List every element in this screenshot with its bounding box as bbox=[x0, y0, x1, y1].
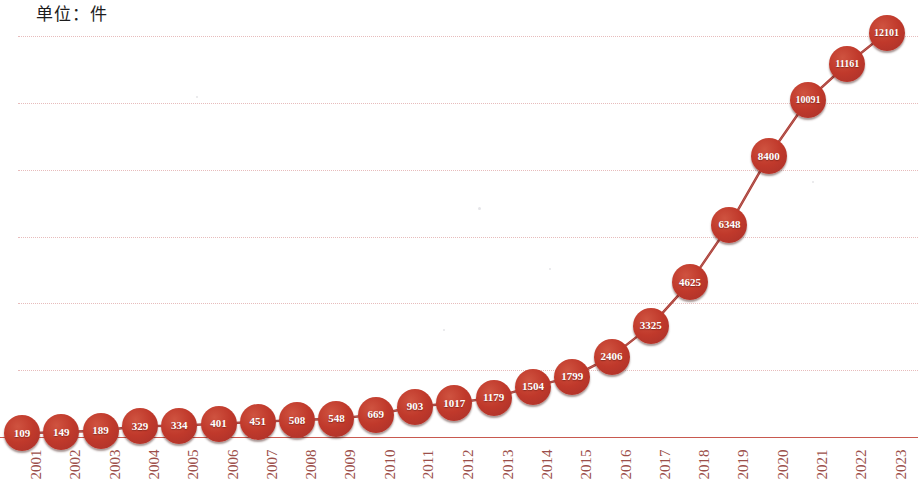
x-axis-tick-label: 2003 bbox=[91, 447, 111, 482]
data-point-value-label: 3325 bbox=[640, 320, 662, 331]
x-axis-tick-label: 2015 bbox=[562, 447, 582, 482]
data-point-value-label: 329 bbox=[132, 421, 149, 432]
x-axis-tick-text: 2020 bbox=[756, 450, 791, 480]
x-axis-tick-label: 2001 bbox=[12, 447, 32, 482]
x-axis-tick-label: 2002 bbox=[51, 447, 71, 482]
x-axis-tick-text: 2017 bbox=[638, 450, 673, 480]
scan-speck bbox=[478, 207, 481, 210]
data-point-value-label: 451 bbox=[250, 416, 267, 427]
x-axis-tick-text: 2021 bbox=[796, 450, 831, 480]
data-point-marker: 508 bbox=[279, 402, 315, 438]
data-point-marker: 1799 bbox=[554, 359, 590, 395]
data-point-value-label: 401 bbox=[210, 418, 227, 429]
x-axis-tick-text: 2012 bbox=[442, 450, 477, 480]
x-axis-tick-text: 2022 bbox=[835, 450, 870, 480]
x-axis-tick-label: 2022 bbox=[837, 447, 857, 482]
data-point-value-label: 2406 bbox=[601, 351, 623, 362]
data-point-marker: 1504 bbox=[515, 369, 551, 405]
data-point-value-label: 1799 bbox=[561, 371, 583, 382]
data-point-marker: 189 bbox=[83, 413, 119, 449]
x-axis-tick-label: 2021 bbox=[798, 447, 818, 482]
data-point-value-label: 334 bbox=[171, 420, 188, 431]
plot-area: 1091491893293344014515085486699031017117… bbox=[0, 0, 918, 497]
data-point-value-label: 12101 bbox=[874, 28, 899, 38]
x-axis-tick-label: 2014 bbox=[523, 447, 543, 482]
data-point-marker: 401 bbox=[201, 406, 237, 442]
chart-container: 单位：件 10914918932933440145150854866990310… bbox=[0, 0, 918, 497]
scan-speck bbox=[443, 329, 445, 331]
data-point-value-label: 189 bbox=[92, 425, 109, 436]
x-axis-tick-label: 2017 bbox=[641, 447, 661, 482]
data-point-marker: 12101 bbox=[869, 15, 905, 51]
x-axis-tick-text: 2007 bbox=[245, 450, 280, 480]
x-axis-tick-label: 2008 bbox=[287, 447, 307, 482]
x-axis-tick-text: 2004 bbox=[127, 450, 162, 480]
data-point-value-label: 6348 bbox=[718, 219, 740, 230]
data-point-marker: 3325 bbox=[633, 308, 669, 344]
x-axis-tick-label: 2004 bbox=[130, 447, 150, 482]
data-point-marker: 334 bbox=[161, 408, 197, 444]
data-point-value-label: 109 bbox=[14, 428, 31, 439]
x-axis-tick-text: 2002 bbox=[49, 450, 84, 480]
x-axis-tick-text: 2001 bbox=[10, 450, 45, 480]
data-point-value-label: 10091 bbox=[796, 95, 821, 105]
data-point-marker: 8400 bbox=[751, 138, 787, 174]
data-point-value-label: 903 bbox=[407, 401, 424, 412]
x-axis-tick-text: 2023 bbox=[874, 450, 909, 480]
x-axis-tick-text: 2014 bbox=[520, 450, 555, 480]
x-axis-tick-label: 2010 bbox=[366, 447, 386, 482]
data-point-value-label: 4625 bbox=[679, 277, 701, 288]
x-axis-tick-label: 2018 bbox=[680, 447, 700, 482]
x-axis-tick-label: 2007 bbox=[248, 447, 268, 482]
data-point-value-label: 1504 bbox=[522, 381, 544, 392]
data-point-marker: 1179 bbox=[476, 380, 512, 416]
data-point-marker: 10091 bbox=[790, 82, 826, 118]
x-axis-tick-text: 2003 bbox=[88, 450, 123, 480]
x-axis-tick-label: 2011 bbox=[405, 447, 425, 482]
x-axis-tick-text: 2018 bbox=[678, 450, 713, 480]
x-axis-tick-label: 2005 bbox=[169, 447, 189, 482]
x-axis-tick-text: 2011 bbox=[402, 450, 437, 479]
x-axis-tick-label: 2013 bbox=[484, 447, 504, 482]
data-point-marker: 903 bbox=[397, 389, 433, 425]
data-point-value-label: 149 bbox=[53, 427, 70, 438]
data-point-value-label: 1017 bbox=[443, 398, 465, 409]
data-point-value-label: 11161 bbox=[835, 59, 859, 69]
x-axis-tick-text: 2009 bbox=[324, 450, 359, 480]
x-axis-tick-label: 2006 bbox=[209, 447, 229, 482]
x-axis-tick-label: 2023 bbox=[877, 447, 897, 482]
data-point-marker: 548 bbox=[318, 401, 354, 437]
x-axis-tick-text: 2006 bbox=[206, 450, 241, 480]
x-axis-tick-text: 2005 bbox=[167, 450, 202, 480]
x-axis-tick-label: 2019 bbox=[719, 447, 739, 482]
scan-speck bbox=[812, 181, 814, 183]
data-point-marker: 329 bbox=[122, 408, 158, 444]
x-axis-tick-label: 2009 bbox=[326, 447, 346, 482]
x-axis-tick-text: 2019 bbox=[717, 450, 752, 480]
data-point-value-label: 548 bbox=[328, 413, 345, 424]
data-point-marker: 451 bbox=[240, 404, 276, 440]
scan-speck bbox=[549, 268, 551, 270]
data-point-value-label: 508 bbox=[289, 415, 306, 426]
data-point-marker: 669 bbox=[358, 397, 394, 433]
x-axis-tick-label: 2016 bbox=[602, 447, 622, 482]
x-axis-tick-label: 2012 bbox=[444, 447, 464, 482]
data-point-marker: 6348 bbox=[711, 207, 747, 243]
data-point-value-label: 669 bbox=[367, 409, 384, 420]
x-axis-tick-text: 2010 bbox=[363, 450, 398, 480]
x-axis-tick-text: 2015 bbox=[560, 450, 595, 480]
x-axis-tick-text: 2008 bbox=[285, 450, 320, 480]
data-point-marker: 2406 bbox=[594, 339, 630, 375]
data-point-value-label: 1179 bbox=[483, 392, 504, 403]
x-axis-tick-text: 2016 bbox=[599, 450, 634, 480]
data-point-value-label: 8400 bbox=[758, 151, 780, 162]
x-axis-tick-text: 2013 bbox=[481, 450, 516, 480]
scan-speck bbox=[196, 96, 198, 98]
x-axis-tick-label: 2020 bbox=[759, 447, 779, 482]
